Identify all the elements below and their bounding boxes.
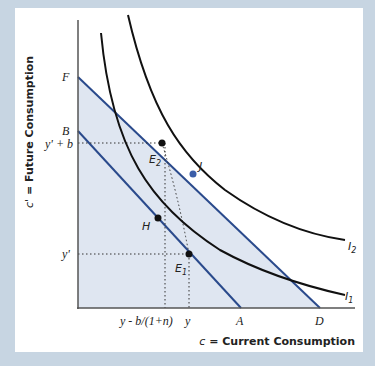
label-y-prime: y' bbox=[61, 247, 70, 261]
consumption-diagram: F B y' + b y' y - b/(1+n) y A D E2 J H E… bbox=[0, 0, 375, 366]
label-I2: I2 bbox=[348, 240, 356, 255]
label-F: F bbox=[61, 70, 70, 84]
point-J bbox=[190, 171, 197, 178]
point-H bbox=[155, 215, 162, 222]
label-B: B bbox=[62, 124, 70, 138]
x-axis-title: c = Current Consumption bbox=[199, 335, 355, 348]
label-H: H bbox=[142, 220, 150, 233]
label-A: A bbox=[235, 314, 244, 328]
label-y-minus-b: y - b/(1+n) bbox=[119, 314, 173, 328]
label-y-prime-plus-b: y' + b bbox=[44, 137, 73, 151]
label-y: y bbox=[184, 314, 191, 328]
point-E2 bbox=[159, 140, 166, 147]
label-D: D bbox=[314, 314, 324, 328]
point-E1 bbox=[186, 251, 193, 258]
label-I1: I1 bbox=[345, 290, 353, 305]
y-axis-title: c' = Future Consumption bbox=[23, 56, 36, 208]
